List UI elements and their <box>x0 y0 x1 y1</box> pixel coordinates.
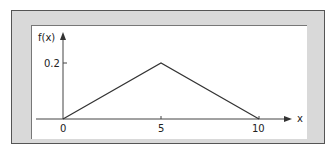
function-line <box>63 63 259 119</box>
triangular-distribution-chart: f(x) 0.2 0 5 10 x <box>0 0 336 160</box>
x-axis-arrow-icon <box>284 116 292 122</box>
x-axis-label: x <box>297 113 303 124</box>
x-tick-label-0: 0 <box>60 123 66 134</box>
y-axis-label: f(x) <box>38 32 55 43</box>
y-tick-label-0.2: 0.2 <box>44 58 60 69</box>
x-tick-label-10: 10 <box>252 123 265 134</box>
y-axis-arrow-icon <box>60 32 66 40</box>
x-tick-label-5: 5 <box>158 123 164 134</box>
